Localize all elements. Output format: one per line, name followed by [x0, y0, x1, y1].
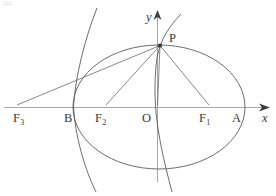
- axes-group: [4, 10, 270, 182]
- hyperbola-left-branch: [74, 8, 98, 192]
- label-f3: F3: [13, 112, 24, 125]
- point-marker-p: [158, 44, 161, 47]
- label-f1: F1: [199, 112, 210, 125]
- label-x-axis: x: [262, 112, 268, 125]
- segment-p-f3: [17, 46, 160, 106]
- label-a: A: [232, 112, 241, 125]
- label-o: O: [142, 112, 151, 125]
- label-b: B: [64, 112, 72, 125]
- label-p: P: [169, 32, 176, 45]
- label-y-axis: y: [146, 11, 152, 24]
- geometry-figure: F3 B F2 O F1 A P y x: [0, 0, 276, 196]
- segment-p-f1: [160, 46, 209, 106]
- hyperbola-right-branch: [155, 14, 181, 192]
- label-f2: F2: [95, 112, 106, 125]
- figure-canvas: [0, 0, 276, 196]
